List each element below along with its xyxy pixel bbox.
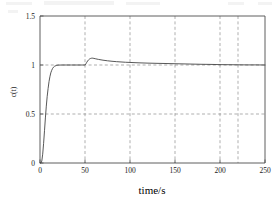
- y-tick-label: 1: [31, 61, 35, 70]
- y-axis-title: c(t): [9, 86, 18, 97]
- x-tick-label: 50: [81, 166, 89, 175]
- plot-background: [0, 0, 280, 201]
- x-axis-title: time/s: [139, 184, 166, 196]
- y-tick-label: 1.5: [26, 12, 36, 21]
- step-response-plot: 0 50 100 150 200 250 0 0.5 1 1.5 c(t) ti…: [0, 0, 280, 201]
- y-tick-label: 0.5: [26, 110, 36, 119]
- x-tick-label: 250: [259, 166, 271, 175]
- x-tick-label: 150: [169, 166, 181, 175]
- x-tick-label: 200: [214, 166, 226, 175]
- x-tick-label: 0: [38, 166, 42, 175]
- x-tick-label: 100: [124, 166, 136, 175]
- chart-figure: 0 50 100 150 200 250 0 0.5 1 1.5 c(t) ti…: [0, 0, 280, 201]
- y-tick-label: 0: [31, 159, 35, 168]
